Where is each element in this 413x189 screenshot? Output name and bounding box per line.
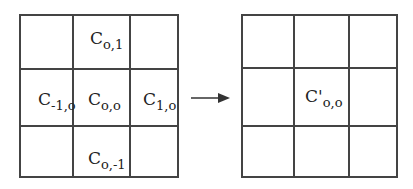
- grid-line: [21, 68, 177, 70]
- cell-label-c-0-1: Co,1: [90, 30, 123, 51]
- grid-line: [293, 16, 295, 176]
- cell-label-c-prime-0-0: C'o,o: [305, 88, 343, 109]
- cell-label-c-0-0: Co,o: [88, 91, 121, 112]
- grid-line: [243, 125, 396, 127]
- cell-label-c-0-minus1: Co,-1: [88, 150, 126, 171]
- cell-label-c-1-0: C1,o: [143, 91, 176, 112]
- grid-line: [129, 16, 131, 176]
- cell-label-c-minus1-0: C-1,o: [38, 91, 76, 112]
- grid-line: [21, 125, 177, 127]
- grid-line: [243, 67, 396, 69]
- grid-line: [348, 16, 350, 176]
- right-arrow-icon: [190, 92, 232, 104]
